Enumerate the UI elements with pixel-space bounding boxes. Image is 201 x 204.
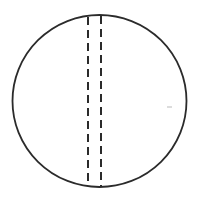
figure-canvas: Circle with two vertical dashed lines: [0, 0, 201, 204]
faint-speck-mark: [167, 106, 172, 108]
outer-circle: [13, 15, 187, 187]
figure-drawing: Circle with two vertical dashed lines: [0, 0, 201, 204]
